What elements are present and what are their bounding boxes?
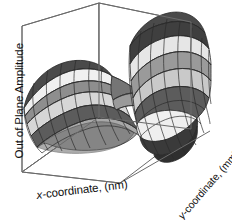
surface-plot-figure: Out of Plane Amplitude x-coordinate, (nm… [0,0,232,220]
z-axis-label: Out of Plane Amplitude [14,36,26,166]
surface-lobe-right [129,12,211,162]
